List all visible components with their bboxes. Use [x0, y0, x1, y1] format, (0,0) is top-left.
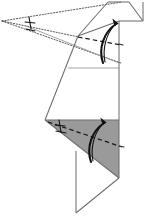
projection-upper-line: [2, 2, 122, 21]
upper-angle-tick-2: [25, 22, 35, 23]
edge-stub-marks: [119, 44, 124, 147]
paper-faces: [45, 2, 143, 213]
folding-diagram-svg: Origami folding step diagram: [0, 0, 149, 218]
folding-diagram-canvas: Origami folding step diagram: [0, 0, 149, 218]
edge-stub-upper: [119, 44, 123, 45]
